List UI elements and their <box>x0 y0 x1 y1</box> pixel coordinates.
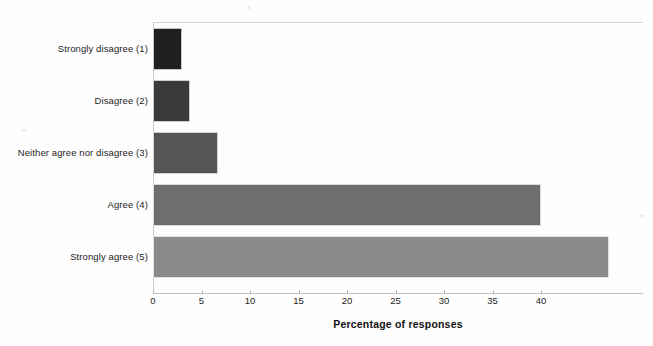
x-tick-mark-25 <box>396 290 397 293</box>
bar-5 <box>153 236 609 278</box>
bar-3 <box>153 132 218 174</box>
y-axis-category-labels: Strongly disagree (1)Disagree (2)Neither… <box>0 22 148 293</box>
x-tick-mark-40 <box>541 290 542 293</box>
x-tick-label-0: 0 <box>150 295 155 306</box>
scan-artifact <box>247 6 251 9</box>
x-tick-mark-20 <box>347 290 348 293</box>
bar-1 <box>153 28 182 70</box>
x-tick-label-20: 20 <box>342 295 353 306</box>
x-tick-label-25: 25 <box>390 295 401 306</box>
x-tick-label-35: 35 <box>487 295 498 306</box>
bar-4 <box>153 184 541 226</box>
category-label-3: Neither agree nor disagree (3) <box>2 147 148 158</box>
x-axis-ticks: 0510152025303540 <box>153 290 643 320</box>
x-tick-mark-35 <box>493 290 494 293</box>
category-label-4: Agree (4) <box>2 199 148 210</box>
category-label-1: Strongly disagree (1) <box>2 43 148 54</box>
bar-2 <box>153 80 190 122</box>
x-tick-mark-10 <box>250 290 251 293</box>
x-tick-label-40: 40 <box>536 295 547 306</box>
x-axis-title: Percentage of responses <box>153 318 643 330</box>
bar-chart-figure: Strongly disagree (1)Disagree (2)Neither… <box>0 0 653 346</box>
category-label-2: Disagree (2) <box>2 95 148 106</box>
x-tick-label-15: 15 <box>293 295 304 306</box>
x-tick-mark-0 <box>153 290 154 293</box>
x-tick-mark-15 <box>299 290 300 293</box>
x-tick-label-5: 5 <box>199 295 204 306</box>
x-tick-mark-30 <box>444 290 445 293</box>
x-tick-label-10: 10 <box>245 295 256 306</box>
x-tick-label-30: 30 <box>439 295 450 306</box>
x-tick-mark-5 <box>202 290 203 293</box>
bars-layer <box>153 22 643 293</box>
category-label-5: Strongly agree (5) <box>2 251 148 262</box>
